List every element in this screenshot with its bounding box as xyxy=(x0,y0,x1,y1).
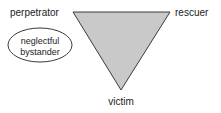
diagram-canvas: perpetrator rescuer victim neglectful by… xyxy=(0,0,221,113)
vertex-label-perpetrator: perpetrator xyxy=(10,7,60,18)
bystander-label-line1: neglectful xyxy=(21,36,60,46)
inverted-triangle-shape xyxy=(73,12,170,90)
vertex-label-victim: victim xyxy=(108,96,134,107)
drama-triangle-diagram: perpetrator rescuer victim neglectful by… xyxy=(0,0,221,113)
vertex-label-rescuer: rescuer xyxy=(175,7,209,18)
bystander-label-line2: bystander xyxy=(20,47,60,57)
